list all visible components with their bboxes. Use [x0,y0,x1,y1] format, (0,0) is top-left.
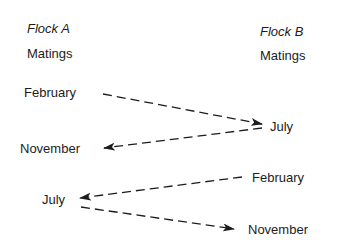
arrow-b-jul-to-a-nov [104,128,262,148]
arrow-b-feb-to-a-jul [80,177,242,198]
arrow-a-feb-to-b-jul [103,94,262,124]
arrows-layer [0,0,342,244]
arrow-a-jul-to-b-nov [81,207,234,229]
